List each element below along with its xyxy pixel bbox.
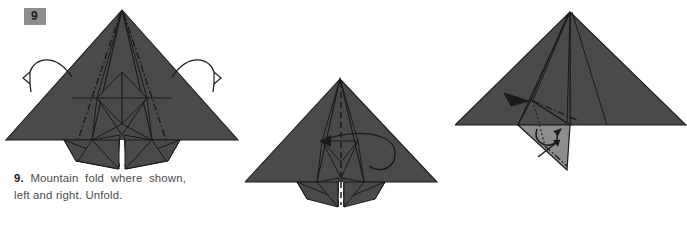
origami-step-11-figure bbox=[455, 0, 687, 249]
instruction-page: 9 9. Mountain fold where shown, left and… bbox=[0, 0, 687, 249]
step-10-panel: 10 bbox=[245, 0, 455, 249]
step-9-panel: 9 9. Mountain fold where shown, left and… bbox=[0, 0, 245, 249]
step-9-caption: 9. Mountain fold where shown, left and r… bbox=[14, 170, 186, 204]
origami-step-9-figure bbox=[0, 0, 245, 249]
light-gray-corner-flap bbox=[518, 125, 570, 170]
step-11-panel: 11 11. Repeat Steps 5–8 on the front cor… bbox=[455, 0, 687, 249]
step-9-badge: 9 bbox=[24, 8, 46, 25]
step-9-caption-text: Mountain fold where shown, left and righ… bbox=[14, 172, 186, 201]
step-9-caption-number: 9. bbox=[14, 172, 24, 184]
origami-step-10-figure bbox=[245, 0, 455, 249]
